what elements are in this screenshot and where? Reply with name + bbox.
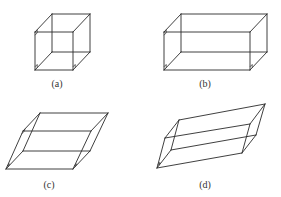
panel-d-oblique-parallelepiped: (d) xyxy=(157,104,265,191)
back-edge xyxy=(90,113,108,151)
panel-b-box: (b) xyxy=(164,14,267,90)
depth-edge xyxy=(164,14,181,32)
panel-label: (c) xyxy=(43,179,54,191)
depth-edge xyxy=(250,104,265,124)
depth-edge xyxy=(250,14,267,32)
back-edge xyxy=(23,113,40,151)
back-edge xyxy=(179,104,265,120)
depth-edge xyxy=(164,52,181,70)
panel-a-cube: (a) xyxy=(35,14,90,90)
panel-c-parallelepiped: (c) xyxy=(6,113,108,191)
panel-label: (a) xyxy=(51,78,62,90)
depth-edge xyxy=(35,52,52,70)
geometry-figure: (a) (b) (c) (d) xyxy=(0,0,281,197)
depth-edge xyxy=(23,113,40,131)
depth-edge xyxy=(91,113,108,131)
front-edge xyxy=(6,131,23,169)
back-edge xyxy=(256,104,265,135)
panel-label: (b) xyxy=(199,78,211,90)
depth-edge xyxy=(73,14,90,32)
front-edge xyxy=(242,124,250,153)
front-edge xyxy=(73,131,91,169)
front-edge xyxy=(157,153,242,168)
depth-edge xyxy=(73,52,90,70)
depth-edge xyxy=(250,52,267,70)
depth-edge xyxy=(35,14,52,32)
panel-label: (d) xyxy=(199,179,211,191)
parallelepiped-diagram: (a) (b) (c) (d) xyxy=(0,0,281,197)
